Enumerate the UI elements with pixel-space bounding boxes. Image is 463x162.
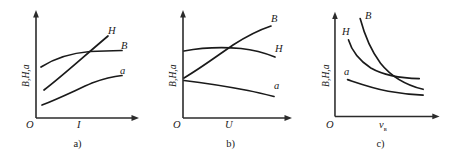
curve-label-h-b: H: [275, 44, 283, 55]
y-axis-arrow-c: [332, 12, 338, 19]
chart-panel-a: H B a O I B,H,a a): [0, 0, 155, 162]
curve-label-a-c: a: [344, 67, 349, 78]
panel-caption-a: a): [0, 138, 155, 149]
x-axis-label-c-subscript: в: [384, 125, 387, 132]
curve-a-a: [42, 76, 122, 106]
y-axis-arrow-b: [180, 10, 186, 18]
curve-label-h-c: H: [342, 27, 350, 38]
x-axis-arrow-b: [285, 115, 293, 121]
curve-a-b: [184, 81, 274, 97]
y-axis-label-c: B,H,a: [322, 64, 332, 87]
origin-label-a: O: [26, 120, 34, 131]
curve-h-b: [184, 48, 275, 57]
curve-label-a-b: a: [274, 81, 279, 92]
y-axis-arrow-a: [33, 10, 39, 18]
origin-label-b: O: [173, 120, 181, 131]
chart-panel-b: B H a O U B,H,a b): [153, 0, 308, 162]
curve-label-b-a: B: [121, 41, 127, 52]
y-axis-label-b: B,H,a: [169, 64, 179, 87]
panel-caption-b: b): [153, 138, 308, 149]
x-axis-label-b: U: [225, 120, 233, 131]
origin-label-c: O: [326, 120, 334, 131]
curve-a-c: [348, 80, 424, 96]
figure-container: H B a O I B,H,a a) B H a O U B,H,a b): [0, 0, 463, 162]
chart-panel-c: B H a O vв B,H,a c): [303, 0, 458, 162]
x-axis-label-a: I: [77, 120, 81, 131]
panel-caption-c: c): [303, 138, 458, 149]
curve-label-a-a: a: [120, 66, 125, 77]
x-axis-arrow-a: [132, 115, 140, 121]
curve-h-c: [349, 40, 420, 79]
y-axis-label-a: B,H,a: [22, 64, 32, 87]
curve-label-b-c: B: [365, 11, 371, 22]
x-axis-label-c: vв: [379, 120, 387, 133]
curve-label-b-b: B: [271, 14, 277, 25]
curve-label-h-a: H: [108, 26, 116, 37]
x-axis-arrow-c: [432, 114, 439, 120]
curve-h-a: [44, 36, 108, 90]
